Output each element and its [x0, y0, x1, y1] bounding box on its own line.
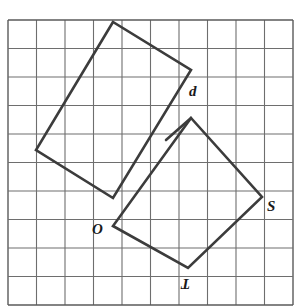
vertex-label-d: d — [189, 84, 197, 99]
geometry-figure: dSOT — [0, 0, 307, 307]
vertex-label-s: S — [267, 199, 275, 214]
grid-layer — [8, 20, 293, 305]
square-otsd — [113, 118, 262, 268]
vertex-label-o: O — [92, 222, 103, 237]
shape-layer — [36, 22, 262, 268]
vertex-label-t: T — [181, 276, 190, 291]
figure-canvas — [0, 0, 307, 307]
